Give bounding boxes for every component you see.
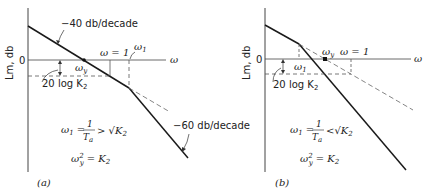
arrow-down-icon — [281, 70, 285, 74]
svg-text:ω1 =: ω1 = — [61, 124, 85, 137]
equation-omega-y: ω2y = K2 — [300, 152, 340, 167]
panel-caption-b: (b) — [275, 177, 289, 188]
arrow-up-icon — [58, 60, 62, 64]
equation-omega-y: ω2y = K2 — [71, 152, 111, 167]
svg-text:ω1 =: ω1 = — [290, 124, 314, 137]
bode-diagram: ω 0 Lm, db ωy ω = 1 ω1 −40 db/decade — [0, 0, 424, 194]
svg-text:ω2y = K2: ω2y = K2 — [71, 152, 111, 167]
x-axis-label: ω — [170, 54, 178, 65]
gain-label: 20 log K2 — [42, 78, 87, 91]
svg-text:Ta: Ta — [83, 132, 93, 144]
omega-y-point — [323, 57, 327, 61]
svg-text:<√K2: <√K2 — [326, 125, 353, 138]
omega-1-leader — [130, 52, 135, 59]
arrow-up-icon — [281, 59, 285, 63]
svg-text:Ta: Ta — [312, 132, 322, 144]
panel-b: ω 0 Lm, db ωy ω = 1 ω1 20 log K2 ω1 = 1 … — [241, 8, 422, 188]
equation-omega1: ω1 = 1 Ta <√K2 — [290, 119, 353, 144]
omega-1-label: ω1 — [134, 41, 147, 54]
asymptote-60db — [299, 44, 406, 170]
arrow-down-icon — [58, 72, 62, 76]
equation-omega1: ω1 = 1 Ta > √K2 — [61, 119, 127, 144]
slope-60-leader — [183, 134, 189, 150]
asymptote-40db — [265, 25, 299, 44]
omega-y-label: ωy — [75, 62, 88, 75]
svg-text:1: 1 — [87, 119, 93, 129]
y-axis-label: Lm, db — [241, 46, 252, 80]
zero-label: 0 — [256, 54, 262, 65]
gain-label: 20 log K2 — [273, 79, 318, 92]
x-axis-label: ω — [414, 53, 422, 64]
svg-text:1: 1 — [316, 119, 322, 129]
slope-60-label: −60 db/decade — [173, 120, 250, 131]
omega-one-label: ω = 1 — [100, 47, 129, 58]
slope-40-label: −40 db/decade — [61, 18, 138, 29]
svg-text:ω2y = K2: ω2y = K2 — [300, 152, 340, 167]
omega-one-label: ω = 1 — [340, 46, 369, 57]
panel-a: ω 0 Lm, db ωy ω = 1 ω1 −40 db/decade — [4, 8, 250, 188]
y-axis-label: Lm, db — [4, 46, 15, 80]
panel-caption-a: (a) — [37, 177, 51, 188]
svg-text:> √K2: > √K2 — [97, 125, 127, 138]
dashed-extension — [129, 88, 170, 112]
zero-label: 0 — [19, 55, 25, 66]
omega-1-label: ω1 — [294, 61, 307, 74]
